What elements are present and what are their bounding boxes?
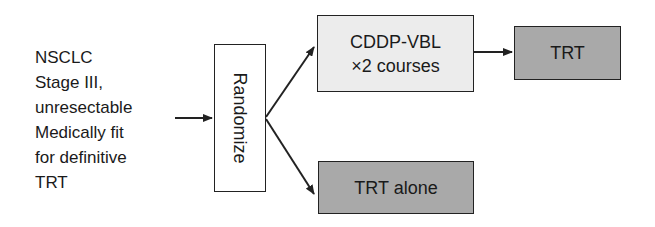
trt-box: TRT (514, 26, 621, 80)
arrow-randomize-to-control (266, 119, 314, 194)
chemo-arm-line2: ×2 courses (351, 54, 440, 78)
randomize-box: Randomize (214, 44, 266, 192)
trt-alone-box: TRT alone (318, 161, 474, 214)
chemo-arm-box: CDDP-VBL ×2 courses (317, 15, 474, 92)
randomize-label: Randomize (228, 72, 252, 163)
trt-label: TRT (550, 41, 585, 65)
arrow-randomize-to-chemo (266, 47, 314, 117)
trt-alone-label: TRT alone (354, 176, 437, 200)
chemo-arm-line1: CDDP-VBL (350, 30, 441, 54)
